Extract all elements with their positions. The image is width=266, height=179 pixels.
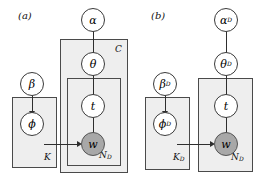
edge-phi-w-a	[44, 144, 80, 145]
plate-c-label: C	[115, 44, 122, 54]
node-phi-a[interactable]: ϕ	[20, 112, 44, 136]
node-alpha-b[interactable]: αD	[214, 8, 238, 32]
node-w-a[interactable]: w	[81, 132, 105, 156]
node-t-a[interactable]: t	[81, 94, 105, 118]
edge-phi-w-b	[177, 144, 213, 145]
node-phi-b[interactable]: ϕD	[153, 112, 177, 136]
node-alpha-a[interactable]: α	[81, 8, 105, 32]
plate-kd-b-label: KD	[173, 152, 185, 162]
node-theta-b[interactable]: θD	[214, 52, 238, 76]
panel-b: (b) ND KD αD θD t w βD ϕD	[133, 0, 266, 179]
node-w-b[interactable]: w	[214, 132, 238, 156]
node-beta-b[interactable]: βD	[153, 72, 177, 96]
node-t-b[interactable]: t	[214, 94, 238, 118]
plate-notation-figure: (a) C ND K α θ t w β ϕ (b)	[0, 0, 266, 179]
panel-a: (a) C ND K α θ t w β ϕ	[0, 0, 133, 179]
node-beta-a[interactable]: β	[20, 72, 44, 96]
panel-a-label: (a)	[18, 10, 32, 21]
panel-b-label: (b)	[151, 10, 165, 21]
plate-k-a-label: K	[44, 152, 51, 162]
node-theta-a[interactable]: θ	[81, 52, 105, 76]
